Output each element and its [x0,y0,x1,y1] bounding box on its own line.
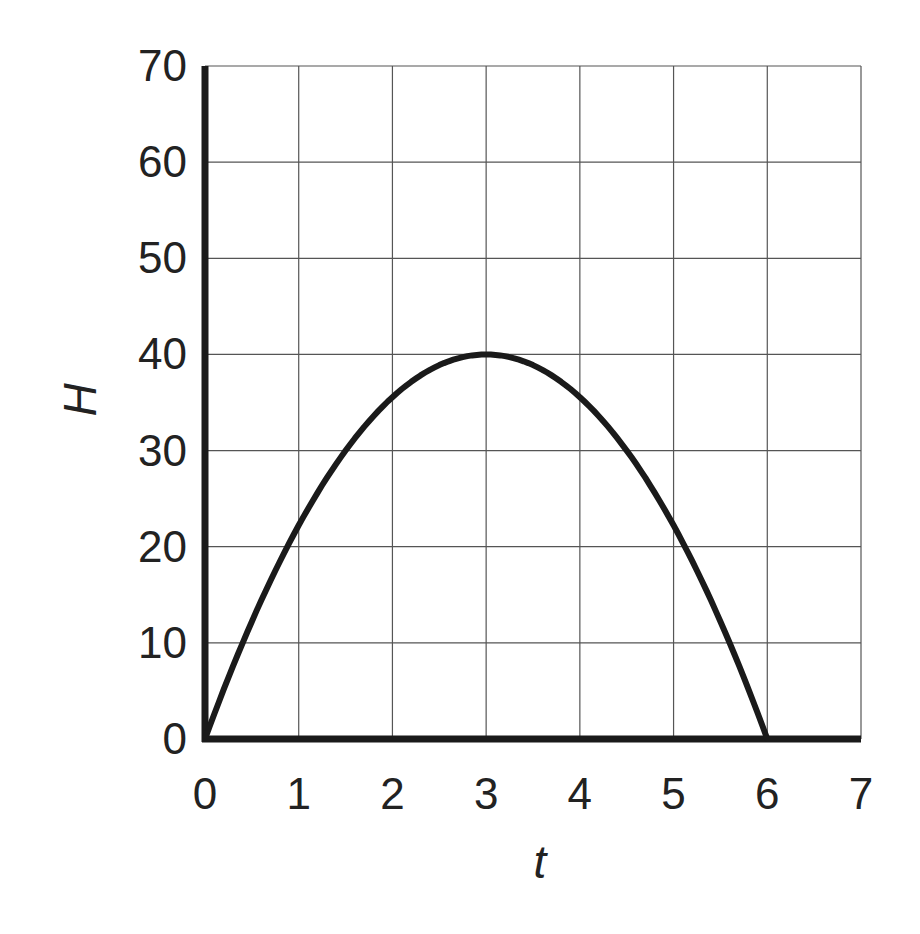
y-tick-label: 70 [138,41,187,90]
parabola-chart: 010203040506070 01234567 H t [0,0,920,934]
axes [202,66,861,742]
y-tick-label: 30 [138,426,187,475]
x-tick-label: 1 [286,769,310,818]
x-tick-label: 4 [568,769,592,818]
x-tick-label: 5 [661,769,685,818]
y-tick-label: 60 [138,137,187,186]
y-axis-ticks: 010203040506070 [138,41,187,763]
y-tick-label: 20 [138,522,187,571]
x-axis-label: t [534,836,549,888]
y-tick-label: 50 [138,233,187,282]
x-tick-label: 7 [849,769,873,818]
y-tick-label: 10 [138,618,187,667]
x-tick-label: 3 [474,769,498,818]
x-tick-label: 0 [193,769,217,818]
x-tick-label: 6 [755,769,779,818]
y-axis-label: H [54,383,106,417]
x-tick-label: 2 [380,769,404,818]
y-tick-label: 40 [138,329,187,378]
x-axis-ticks: 01234567 [193,769,873,818]
grid-lines [205,66,861,739]
y-tick-label: 0 [163,714,187,763]
